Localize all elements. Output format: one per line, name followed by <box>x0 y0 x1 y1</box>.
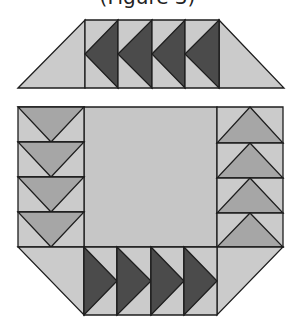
bottom-left-corner-triangle <box>18 247 84 315</box>
top-right-corner-triangle <box>219 20 284 88</box>
bottom-right-corner-triangle <box>217 247 283 315</box>
top-left-corner-triangle <box>18 20 85 88</box>
quilt-block-diagram <box>0 0 295 328</box>
center-square <box>84 107 217 247</box>
